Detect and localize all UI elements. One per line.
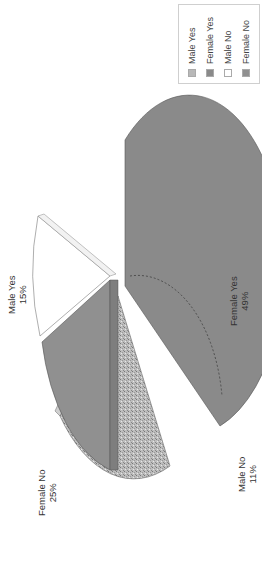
swatch-icon: [188, 69, 196, 77]
swatch-icon: [224, 69, 232, 77]
label-female-no: Female No 25%: [36, 470, 58, 516]
legend: Male Yes Female Yes Male No Female No: [178, 4, 260, 84]
legend-item-male-yes: Male Yes: [183, 11, 201, 77]
label-female-yes: Female Yes 49%: [228, 276, 250, 326]
legend-item-female-yes: Female Yes: [201, 11, 219, 77]
legend-item-male-no: Male No: [219, 11, 237, 77]
swatch-icon: [206, 69, 214, 77]
swatch-icon: [242, 69, 250, 77]
slice-female-yes: [125, 95, 262, 426]
legend-item-female-no: Female No: [237, 11, 255, 77]
label-male-no: Male No 11%: [236, 457, 258, 492]
label-male-yes: Male Yes 15%: [6, 275, 28, 314]
chart-stage: Male Yes 15% Female Yes 49% Male No 11% …: [0, 0, 262, 576]
